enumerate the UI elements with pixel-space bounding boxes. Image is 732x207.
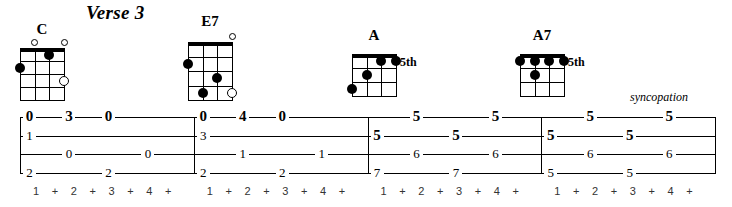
count-beat: 4 bbox=[144, 186, 154, 197]
count-beat: + bbox=[473, 186, 483, 197]
count-beat: + bbox=[397, 186, 407, 197]
nut-line bbox=[352, 54, 397, 58]
count-beat: + bbox=[684, 186, 694, 197]
count-beat: 3 bbox=[628, 186, 638, 197]
page-title: Verse 3 bbox=[86, 2, 145, 24]
count-beat: 4 bbox=[318, 186, 328, 197]
count-beat: + bbox=[125, 186, 135, 197]
tab-note: 2 bbox=[197, 166, 210, 179]
count-beat: + bbox=[88, 186, 98, 197]
fret-line bbox=[188, 100, 233, 101]
tab-note: 5 bbox=[584, 109, 597, 124]
tab-note: 1 bbox=[315, 147, 328, 160]
chord-name: A bbox=[352, 28, 396, 43]
tab-note: 1 bbox=[236, 147, 249, 160]
count-beat: 1 bbox=[552, 186, 562, 197]
nut-line bbox=[520, 54, 565, 58]
tab-note: 5 bbox=[623, 128, 636, 143]
count-beat: 3 bbox=[280, 186, 290, 197]
chord-name: A7 bbox=[520, 28, 564, 43]
open-string-circle bbox=[59, 76, 69, 86]
fret-line bbox=[188, 86, 233, 87]
finger-dot bbox=[544, 56, 554, 66]
tab-note: 5 bbox=[449, 128, 462, 143]
fret-line bbox=[188, 71, 233, 72]
tab-note: 2 bbox=[102, 166, 115, 179]
count-beat: + bbox=[647, 186, 657, 197]
fret-line bbox=[352, 68, 397, 69]
count-beat: + bbox=[511, 186, 521, 197]
count-beat: 4 bbox=[492, 186, 502, 197]
chord-fretboard-grid bbox=[20, 48, 64, 100]
count-beat: + bbox=[261, 186, 271, 197]
tab-note: 5 bbox=[544, 128, 557, 143]
fret-position-label: 5th bbox=[568, 56, 585, 68]
fret-line bbox=[188, 57, 233, 58]
count-beat: 2 bbox=[69, 186, 79, 197]
count-beat: 1 bbox=[31, 186, 41, 197]
string-line bbox=[64, 48, 65, 101]
fret-line bbox=[520, 82, 565, 83]
open-string-marker bbox=[31, 39, 38, 46]
tab-note: 5 bbox=[410, 109, 423, 124]
string-line bbox=[217, 42, 218, 101]
tab-note: 2 bbox=[23, 166, 36, 179]
finger-dot bbox=[212, 73, 222, 83]
chord-fretboard-grid bbox=[352, 54, 396, 96]
string-line bbox=[20, 48, 21, 101]
tab-note: 2 bbox=[276, 166, 289, 179]
count-beat: + bbox=[571, 186, 581, 197]
count-beat: 1 bbox=[379, 186, 389, 197]
chord-name: E7 bbox=[188, 14, 232, 29]
barline bbox=[194, 117, 195, 174]
finger-dot bbox=[198, 88, 208, 98]
tab-note: 6 bbox=[410, 147, 423, 160]
tab-note: 4 bbox=[236, 109, 249, 124]
fret-position-label: 5th bbox=[400, 56, 417, 68]
count-beat: 4 bbox=[666, 186, 676, 197]
open-string-marker bbox=[229, 33, 236, 40]
tab-note: 6 bbox=[584, 147, 597, 160]
fret-line bbox=[352, 82, 397, 83]
barline bbox=[368, 117, 369, 174]
count-beat: 3 bbox=[107, 186, 117, 197]
finger-dot bbox=[183, 59, 193, 69]
nut-line bbox=[188, 42, 233, 46]
tab-note: 5 bbox=[623, 166, 636, 179]
count-beat: 2 bbox=[590, 186, 600, 197]
count-beat: + bbox=[435, 186, 445, 197]
string-line bbox=[35, 48, 36, 101]
tab-note: 1 bbox=[23, 129, 36, 142]
tab-note: 0 bbox=[23, 109, 36, 124]
count-beat: + bbox=[50, 186, 60, 197]
nut-line bbox=[20, 48, 65, 52]
open-string-circle bbox=[227, 88, 237, 98]
tab-note: 0 bbox=[197, 109, 210, 124]
performance-direction: syncopation bbox=[630, 90, 688, 105]
tab-note: 5 bbox=[663, 109, 676, 124]
string-line bbox=[188, 42, 189, 101]
tab-note: 0 bbox=[62, 147, 75, 160]
finger-dot bbox=[15, 63, 25, 73]
count-beat: 2 bbox=[243, 186, 253, 197]
tab-note: 6 bbox=[489, 147, 502, 160]
barline bbox=[715, 117, 716, 174]
fret-line bbox=[520, 68, 565, 69]
finger-dot bbox=[530, 70, 540, 80]
fret-line bbox=[352, 96, 397, 97]
tab-note: 7 bbox=[371, 166, 384, 179]
tab-note: 0 bbox=[102, 109, 115, 124]
guitar-tab-sheet: Verse 3 CE7A5thA75th syncopation 0123002… bbox=[0, 0, 732, 207]
count-beat: + bbox=[163, 186, 173, 197]
finger-dot bbox=[530, 56, 540, 66]
barline bbox=[541, 117, 542, 174]
count-beat: + bbox=[299, 186, 309, 197]
barline bbox=[20, 117, 21, 174]
finger-dot bbox=[44, 50, 54, 60]
fret-line bbox=[20, 61, 65, 62]
chord-fretboard-grid bbox=[520, 54, 564, 96]
tab-note: 5 bbox=[544, 166, 557, 179]
tab-note: 3 bbox=[62, 109, 75, 124]
tab-note: 5 bbox=[489, 109, 502, 124]
tab-note: 7 bbox=[449, 166, 462, 179]
